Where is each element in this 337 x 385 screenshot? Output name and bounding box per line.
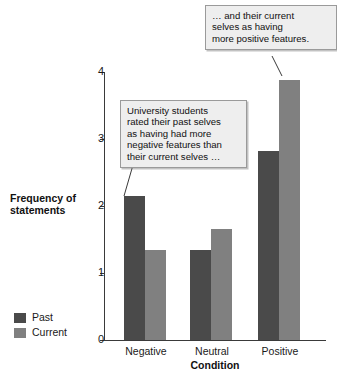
legend: PastCurrent: [14, 310, 67, 340]
x-axis-title: Condition: [104, 359, 326, 371]
legend-swatch-current: [14, 328, 26, 338]
bar-negative-current: [145, 250, 166, 340]
legend-swatch-past: [14, 313, 26, 323]
x-category-label-positive: Positive: [254, 345, 306, 357]
bar-negative-past: [124, 196, 145, 340]
legend-label-current: Current: [32, 327, 67, 338]
legend-item-current: Current: [14, 325, 67, 340]
annotation-callout-past: University students rated their past sel…: [120, 100, 247, 168]
x-category-label-negative: Negative: [120, 345, 172, 357]
legend-label-past: Past: [32, 312, 53, 323]
bar-positive-current: [279, 80, 300, 340]
annotation-callout-current: … and their current selves as having mor…: [205, 5, 337, 50]
x-category-label-neutral: Neutral: [186, 345, 238, 357]
bar-neutral-past: [190, 250, 211, 340]
bar-neutral-current: [211, 229, 232, 340]
bar-positive-past: [258, 151, 279, 340]
legend-item-past: Past: [14, 310, 67, 325]
